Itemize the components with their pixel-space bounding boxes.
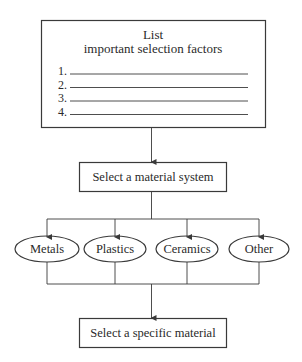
oval-label-other: Other xyxy=(229,242,289,256)
factor-number-2: 2. xyxy=(58,79,67,91)
oval-label-plastics: Plastics xyxy=(84,242,146,256)
specific-box-label: Select a specific material xyxy=(79,326,227,340)
factor-number-1: 1. xyxy=(58,65,67,77)
factor-number-4: 4. xyxy=(58,106,67,118)
factors-title-line-1: List xyxy=(41,28,265,41)
system-box-label: Select a material system xyxy=(79,170,227,184)
factor-number-3: 3. xyxy=(58,92,67,104)
oval-label-metals: Metals xyxy=(15,242,79,256)
factors-title-line-2: important selection factors xyxy=(41,42,265,55)
oval-label-ceramics: Ceramics xyxy=(156,242,218,256)
